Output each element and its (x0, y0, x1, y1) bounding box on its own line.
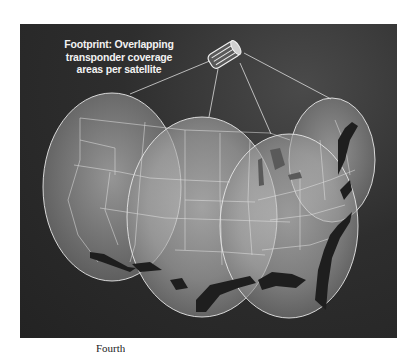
satellite-icon (206, 39, 243, 70)
caption-line: transponder coverage (64, 51, 174, 64)
figure-caption: Footprint: Overlapping transponder cover… (64, 38, 174, 76)
cut-off-body-text: Fourth (96, 343, 125, 354)
caption-line: areas per satellite (64, 63, 174, 76)
satellite-footprint-figure: Footprint: Overlapping transponder cover… (20, 24, 397, 338)
caption-line: Footprint: Overlapping (64, 38, 174, 51)
